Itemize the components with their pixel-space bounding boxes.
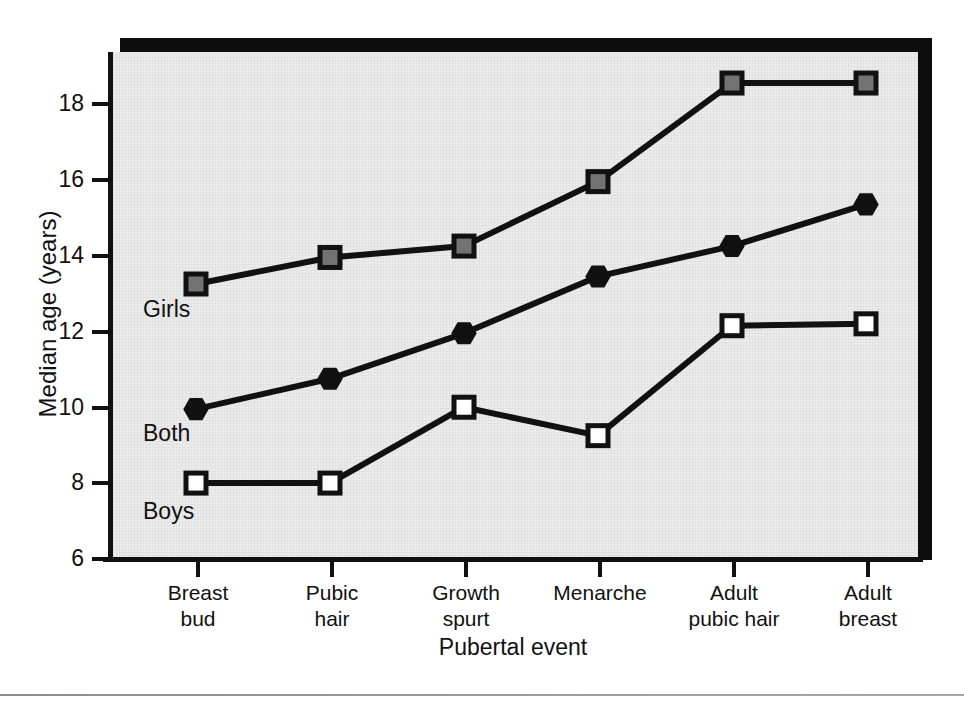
marker-square — [186, 274, 206, 294]
data-point-both-0[interactable] — [185, 400, 207, 419]
data-point-girls-0[interactable] — [186, 274, 206, 294]
marker-square — [454, 236, 474, 256]
data-point-boys-1[interactable] — [320, 473, 340, 493]
data-point-both-4[interactable] — [721, 237, 743, 256]
series-plot-svg — [0, 0, 964, 708]
marker-hexagon — [721, 237, 743, 256]
series-line-girls — [196, 83, 866, 284]
marker-square — [856, 73, 876, 93]
data-point-girls-5[interactable] — [856, 73, 876, 93]
data-point-girls-1[interactable] — [320, 247, 340, 267]
series-line-both — [196, 204, 866, 409]
footer-caption-text — [420, 700, 964, 708]
marker-hexagon — [185, 400, 207, 419]
series-label-girls: Girls — [143, 296, 190, 323]
marker-hexagon — [453, 324, 475, 343]
data-point-boys-3[interactable] — [588, 426, 608, 446]
marker-square — [588, 172, 608, 192]
series-label-both: Both — [143, 420, 190, 447]
marker-hexagon — [855, 195, 877, 214]
marker-square — [320, 247, 340, 267]
data-point-boys-2[interactable] — [454, 397, 474, 417]
marker-square — [856, 314, 876, 334]
series-label-boys: Boys — [143, 498, 194, 525]
marker-square — [722, 73, 742, 93]
data-point-both-5[interactable] — [855, 195, 877, 214]
data-point-both-2[interactable] — [453, 324, 475, 343]
data-point-both-3[interactable] — [587, 267, 609, 286]
data-point-girls-3[interactable] — [588, 172, 608, 192]
data-point-boys-0[interactable] — [186, 473, 206, 493]
marker-square — [454, 397, 474, 417]
marker-hexagon — [319, 369, 341, 388]
data-point-boys-5[interactable] — [856, 314, 876, 334]
data-point-girls-2[interactable] — [454, 236, 474, 256]
marker-square — [588, 426, 608, 446]
data-point-girls-4[interactable] — [722, 73, 742, 93]
marker-square — [722, 316, 742, 336]
footer-divider — [0, 694, 964, 696]
series-line-boys — [196, 324, 866, 483]
marker-square — [186, 473, 206, 493]
data-point-boys-4[interactable] — [722, 316, 742, 336]
marker-hexagon — [587, 267, 609, 286]
data-point-both-1[interactable] — [319, 369, 341, 388]
marker-square — [320, 473, 340, 493]
figure-container: 18 16 14 12 10 8 6 Median age (years) Br… — [0, 0, 964, 708]
